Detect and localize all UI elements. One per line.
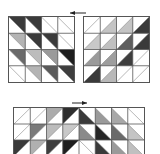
arrow-right-icon xyxy=(0,0,160,154)
